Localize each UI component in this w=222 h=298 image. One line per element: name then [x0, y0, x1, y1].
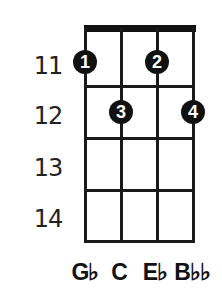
fret-line-2 [84, 137, 195, 140]
fret-line-1 [84, 85, 195, 88]
chord-diagram: 11 12 13 14 1 2 3 4 G♭ C E♭ B♭♭ [0, 0, 222, 298]
finger-dot-3: 3 [109, 100, 133, 124]
note-label-2: C [99, 259, 139, 285]
string-4 [192, 28, 195, 242]
note-label-3: E♭ [135, 259, 175, 285]
finger-dot-1: 1 [73, 50, 97, 74]
fret-line-4 [84, 240, 195, 243]
fret-line-3 [84, 189, 195, 192]
fret-number-13: 13 [28, 156, 68, 180]
string-2 [120, 28, 123, 242]
fret-number-14: 14 [28, 207, 68, 231]
finger-dot-4: 4 [181, 100, 205, 124]
fret-number-11: 11 [28, 54, 68, 78]
note-label-4: B♭♭ [172, 259, 212, 285]
fret-number-12: 12 [28, 104, 68, 128]
finger-dot-2: 2 [145, 50, 169, 74]
nut [84, 25, 196, 32]
